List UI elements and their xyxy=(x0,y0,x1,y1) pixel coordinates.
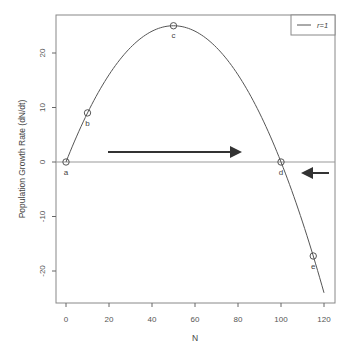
chart-canvas: 20 10 0 -10 -20 Population Growth Rate (… xyxy=(0,0,352,358)
x-tick-labels: 0 20 40 60 80 100 120 xyxy=(64,315,331,324)
x-tick-40: 40 xyxy=(148,315,157,324)
y-tick-labels: 20 10 0 -10 -20 xyxy=(38,48,47,277)
y-tick-20: 20 xyxy=(38,48,47,57)
y-axis-title: Population Growth Rate (dN/dt) xyxy=(17,100,27,219)
point-a-label: a xyxy=(64,168,69,177)
x-tick-60: 60 xyxy=(191,315,200,324)
point-d-label: d xyxy=(279,168,283,177)
y-axis xyxy=(52,53,56,271)
marked-points xyxy=(63,23,317,260)
x-tick-80: 80 xyxy=(234,315,243,324)
x-tick-0: 0 xyxy=(64,315,69,324)
x-tick-100: 100 xyxy=(274,315,288,324)
point-b-label: b xyxy=(85,119,90,128)
point-e-label: e xyxy=(311,262,316,271)
y-tick-0: 0 xyxy=(38,159,47,164)
x-axis-title: N xyxy=(192,333,198,343)
y-tick-neg10: -10 xyxy=(38,210,47,222)
y-tick-neg20: -20 xyxy=(38,265,47,277)
x-tick-120: 120 xyxy=(317,315,331,324)
point-c-label: c xyxy=(172,31,176,40)
legend: r=1 xyxy=(291,15,335,35)
y-tick-10: 10 xyxy=(38,103,47,112)
legend-label: r=1 xyxy=(317,21,328,30)
x-axis xyxy=(66,303,324,307)
plot-frame xyxy=(56,15,335,303)
growth-curve-line xyxy=(66,26,324,293)
x-tick-20: 20 xyxy=(105,315,114,324)
